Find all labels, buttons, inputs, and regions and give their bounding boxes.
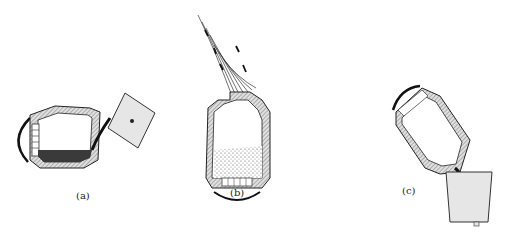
panel-a-converter <box>18 93 155 168</box>
panel-c-label: (c) <box>402 185 416 196</box>
panel-b-label: (b) <box>230 187 244 198</box>
panel-c-converter <box>393 86 492 226</box>
panel-a-label: (a) <box>76 190 90 201</box>
converter-diagram: (a) (b) <box>0 0 509 237</box>
panel-b-converter <box>198 15 270 200</box>
